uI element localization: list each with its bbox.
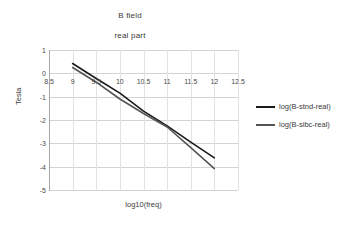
series-lines (49, 50, 238, 190)
x-tick-label: 9 (71, 78, 75, 85)
legend-swatch-icon (256, 124, 275, 126)
legend-label: log(B-stnd-real) (279, 102, 331, 111)
gridline (49, 190, 238, 191)
x-tick-label: 11 (163, 78, 170, 85)
y-tick-label: -5 (40, 187, 46, 194)
x-axis-title: log10(freq) (49, 200, 238, 209)
legend-item[interactable]: log(B-stnd-real) (256, 100, 352, 113)
y-tick-label: -4 (40, 163, 46, 170)
x-tick-label: 12.5 (231, 78, 245, 85)
x-tick-label: 9.5 (91, 78, 101, 85)
legend-swatch-icon (256, 106, 275, 108)
y-tick-label: 1 (42, 47, 46, 54)
y-tick-label: -2 (40, 117, 46, 124)
y-tick-label: -1 (40, 93, 46, 100)
legend-label: log(B-sibc-real) (279, 120, 330, 129)
chart-subtitle: real part (0, 31, 260, 40)
legend-item[interactable]: log(B-sibc-real) (256, 118, 352, 131)
y-axis-title: Tesla (14, 87, 23, 105)
x-axis-tick-labels: 8.599.51010.51111.51212.5 (49, 78, 238, 88)
chart-legend: log(B-stnd-real)log(B-sibc-real) (256, 100, 352, 136)
plot-area: 10-1-2-3-4-5 (49, 50, 238, 190)
y-tick-label: 0 (42, 70, 46, 77)
vertical-gridline (238, 50, 239, 190)
x-tick-label: 12 (210, 78, 218, 85)
x-tick-label: 10.5 (137, 78, 151, 85)
y-tick-label: -3 (40, 140, 46, 147)
chart-title: B field (0, 11, 260, 20)
x-tick-label: 10 (116, 78, 124, 85)
chart-container: B field real part 10-1-2-3-4-5 8.599.510… (0, 0, 354, 228)
x-tick-label: 8.5 (44, 78, 54, 85)
y-axis-line (49, 50, 50, 191)
x-tick-label: 11.5 (184, 78, 197, 85)
